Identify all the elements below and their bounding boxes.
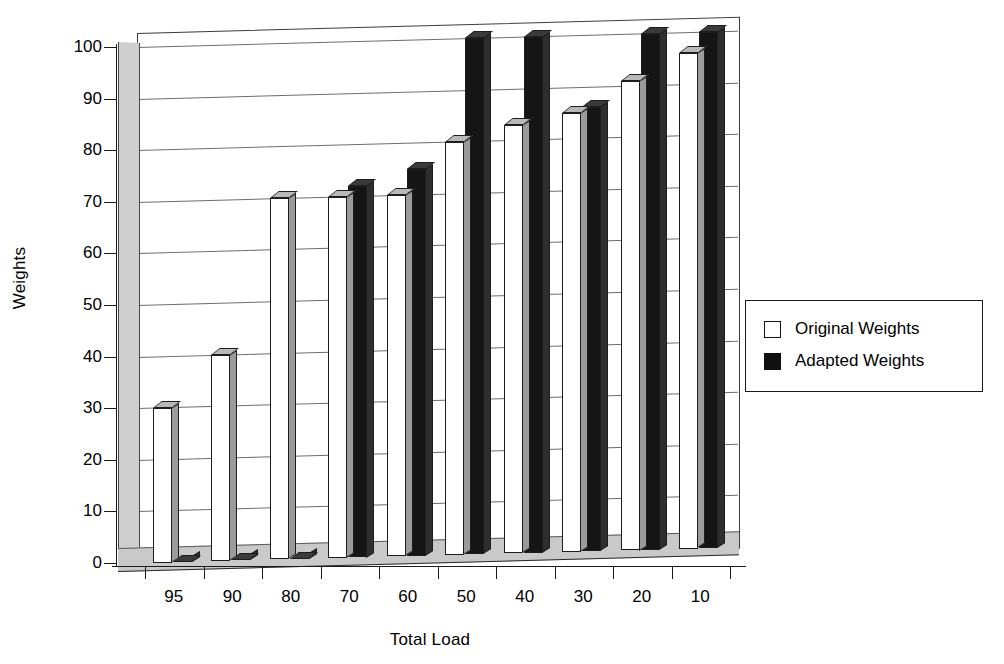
bar-side-face — [346, 192, 354, 558]
bar-side-face — [483, 33, 491, 554]
y-tick-label-30: 30 — [58, 399, 102, 416]
bar-original-95 — [153, 400, 172, 563]
y-tick-mark-90 — [104, 99, 116, 100]
bar-side-face — [171, 403, 179, 563]
bar-original-60 — [387, 187, 406, 556]
legend-label-adapted: Adapted Weights — [795, 352, 924, 370]
x-tick-label-40: 40 — [497, 588, 553, 606]
bar-original-30 — [562, 105, 581, 552]
white-square-swatch-icon — [764, 321, 781, 338]
bar-side-face — [580, 108, 588, 552]
bar-front-face — [504, 125, 523, 553]
bar-side-face — [639, 76, 647, 551]
bar-original-70 — [328, 189, 347, 558]
y-tick-label-100: 100 — [58, 38, 102, 55]
black-square-swatch-icon — [764, 353, 781, 370]
bar-side-face — [600, 102, 608, 551]
x-tick-label-60: 60 — [380, 588, 436, 606]
bar-front-face — [562, 113, 581, 552]
bar-original-40 — [504, 117, 523, 553]
x-tick-mark-40 — [496, 566, 497, 579]
x-tick-label-10: 10 — [672, 588, 728, 606]
y-tick-mark-30 — [104, 408, 116, 409]
chart-legend: Original Weights Adapted Weights — [745, 300, 983, 392]
bar-side-face — [542, 32, 550, 553]
y-tick-mark-0 — [104, 563, 116, 564]
y-tick-mark-100 — [104, 47, 116, 48]
bar-front-face — [328, 197, 347, 558]
bar-side-face — [288, 193, 296, 559]
bar-side-face — [425, 164, 433, 556]
x-tick-mark-90 — [204, 566, 205, 579]
x-tick-mark-70 — [321, 566, 322, 579]
legend-item-original: Original Weights — [764, 313, 982, 345]
bar-front-face — [621, 81, 640, 551]
bar-front-face — [153, 408, 172, 563]
y-tick-mark-40 — [104, 357, 116, 358]
x-tick-label-50: 50 — [438, 588, 494, 606]
x-tick-label-30: 30 — [555, 588, 611, 606]
y-tick-label-50: 50 — [58, 296, 102, 313]
x-tick-label-20: 20 — [614, 588, 670, 606]
x-tick-mark-60 — [379, 566, 380, 579]
x-tick-mark-20 — [613, 566, 614, 579]
bar-front-face — [679, 53, 698, 548]
y-tick-mark-80 — [104, 150, 116, 151]
bar-side-face — [405, 190, 413, 556]
x-tick-mark-80 — [262, 566, 263, 579]
x-tick-label-95: 95 — [146, 588, 202, 606]
y-axis-title: Weights — [10, 198, 30, 358]
y-tick-label-40: 40 — [58, 348, 102, 365]
bar-original-50 — [445, 134, 464, 555]
x-tick-mark-95 — [145, 566, 146, 579]
legend-label-original: Original Weights — [795, 320, 919, 338]
bar-original-20 — [621, 73, 640, 551]
x-tick-label-80: 80 — [263, 588, 319, 606]
y-tick-mark-50 — [104, 305, 116, 306]
bar-front-face — [387, 195, 406, 556]
bar-original-90 — [211, 347, 230, 561]
bar-original-10 — [679, 45, 698, 548]
bar-original-80 — [270, 190, 289, 559]
bar-front-face — [270, 198, 289, 559]
y-tick-label-90: 90 — [58, 90, 102, 107]
y-tick-mark-10 — [104, 511, 116, 512]
x-tick-mark-50 — [438, 566, 439, 579]
y-tick-label-10: 10 — [58, 502, 102, 519]
x-tick-label-90: 90 — [204, 588, 260, 606]
bar-side-face — [463, 137, 471, 555]
bar-front-face — [445, 142, 464, 555]
y-axis-line — [116, 44, 117, 567]
bar-side-face — [659, 29, 667, 550]
bar-side-face — [366, 181, 374, 558]
y-tick-label-20: 20 — [58, 451, 102, 468]
x-tick-mark-10 — [672, 566, 673, 579]
bar-side-face — [697, 48, 705, 548]
bar-side-face — [522, 120, 530, 553]
x-tick-marks — [0, 566, 1004, 582]
x-tick-mark-end — [730, 566, 731, 579]
x-tick-label-70: 70 — [321, 588, 377, 606]
bar-front-face — [211, 355, 230, 561]
x-tick-mark-30 — [555, 566, 556, 579]
y-tick-label-70: 70 — [58, 193, 102, 210]
y-tick-label-80: 80 — [58, 141, 102, 158]
x-tick-labels: 95908070605040302010 — [0, 588, 1004, 616]
y-tick-mark-60 — [104, 253, 116, 254]
bar-chart-figure: 0102030405060708090100 95908070605040302… — [0, 0, 1004, 664]
bar-side-face — [229, 350, 237, 561]
y-tick-labels: 0102030405060708090100 — [58, 0, 102, 664]
bar-side-face — [717, 27, 725, 548]
legend-item-adapted: Adapted Weights — [764, 345, 982, 377]
y-tick-mark-70 — [104, 202, 116, 203]
y-tick-mark-20 — [104, 460, 116, 461]
x-axis-title: Total Load — [110, 630, 750, 650]
y-tick-label-60: 60 — [58, 244, 102, 261]
